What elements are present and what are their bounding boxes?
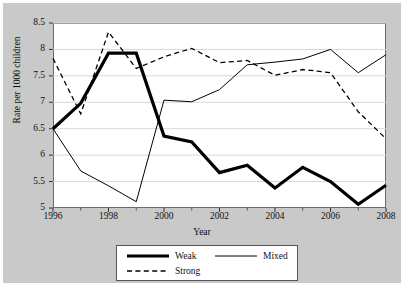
legend-label-weak: Weak xyxy=(175,251,196,261)
x-axis-title: Year xyxy=(3,227,401,237)
series-line-mixed xyxy=(53,49,386,201)
y-tick-label: 5.5 xyxy=(15,177,45,187)
legend-label-strong: Strong xyxy=(175,266,200,276)
y-axis-title: Rate per 1000 children xyxy=(12,0,22,160)
legend-swatch-strong xyxy=(126,266,170,276)
x-tick-label: 2002 xyxy=(200,212,240,222)
legend-label-mixed: Mixed xyxy=(263,251,288,261)
x-tick-label: 2004 xyxy=(255,212,295,222)
legend-swatch-mixed xyxy=(214,251,258,261)
chart-svg xyxy=(3,3,404,286)
legend-item-mixed: Mixed xyxy=(214,251,288,261)
chart-legend: Weak Mixed Strong xyxy=(116,245,298,281)
x-tick-label: 2006 xyxy=(311,212,351,222)
legend-item-weak: Weak xyxy=(126,251,196,261)
gridlines xyxy=(53,23,386,182)
chart-figure: 55.566.577.588.5 19961998200020022004200… xyxy=(0,0,404,286)
legend-item-strong: Strong xyxy=(126,266,200,276)
x-tick-label: 2008 xyxy=(366,212,404,222)
x-tick-label: 2000 xyxy=(144,212,184,222)
x-tick-label: 1998 xyxy=(89,212,129,222)
legend-swatch-weak xyxy=(126,251,170,261)
x-tick-label: 1996 xyxy=(33,212,73,222)
series-line-strong xyxy=(53,32,386,139)
